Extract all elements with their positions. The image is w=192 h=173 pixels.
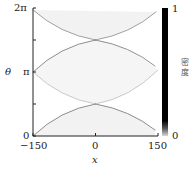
colorbar-side-label: 密度: [178, 58, 189, 78]
x-axis-label: x: [92, 155, 98, 165]
y-tick-pi: π: [23, 67, 30, 77]
colorbar: [162, 8, 168, 136]
colorbar-top-label: 1: [172, 4, 178, 14]
y-axis-label: θ: [5, 67, 11, 77]
colorbar-bottom-label: 0: [172, 131, 178, 141]
density-ridges: [33, 10, 158, 136]
y-tick-2pi: 2π: [14, 3, 27, 13]
x-tick-neg150: −150: [20, 141, 47, 151]
x-tick-150: 150: [148, 141, 167, 151]
x-tick-0: 0: [92, 141, 98, 151]
